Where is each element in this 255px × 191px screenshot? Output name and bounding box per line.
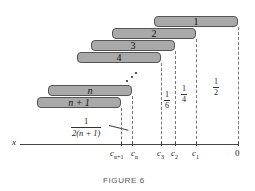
tick-label-c1: c1 — [192, 148, 199, 160]
bar-label: n — [88, 86, 93, 96]
tick-c3 — [161, 142, 162, 146]
bar-n-plus-1: n + 1 — [37, 97, 121, 108]
bar-label: 2 — [152, 29, 157, 39]
fraction-one-over-2n-plus-1: 1 2(n + 1) — [71, 117, 101, 137]
bar-label: n + 1 — [68, 98, 90, 108]
dashed-line-zero — [238, 27, 239, 144]
dashed-line-c-n — [132, 96, 133, 144]
bar-label: 4 — [117, 53, 122, 63]
tick-c2 — [175, 142, 176, 146]
x-axis — [20, 144, 239, 145]
figure-caption: FIGURE 6 — [103, 176, 145, 185]
bar-n: n — [48, 85, 132, 96]
tick-zero — [238, 142, 239, 146]
fraction-one-sixth: 1 6 — [164, 91, 170, 110]
dashed-line-c1 — [196, 39, 197, 144]
dashed-line-c3 — [161, 63, 162, 144]
fraction-one-half: 1 2 — [213, 78, 219, 97]
bar-3: 3 — [91, 40, 175, 51]
bar-2: 2 — [112, 28, 196, 39]
ellipsis-dot — [126, 80, 128, 82]
axis-label-x: x — [12, 137, 16, 147]
dashed-line-c2 — [175, 51, 176, 144]
ellipsis-dot — [131, 76, 133, 78]
tick-c-n — [132, 142, 133, 146]
leader-line — [109, 125, 129, 131]
bar-1: 1 — [154, 16, 238, 27]
tick-label-c-n: cn — [131, 148, 138, 160]
tick-c-n-plus-1 — [121, 142, 122, 146]
bar-label: 1 — [194, 17, 199, 27]
bar-label: 3 — [131, 41, 136, 51]
ellipsis-dot — [135, 72, 137, 74]
tick-label-c2: c2 — [171, 148, 178, 160]
tick-label-zero: 0 — [235, 148, 240, 158]
dashed-line-c-n-plus-1 — [121, 108, 122, 144]
bar-4: 4 — [77, 52, 161, 63]
tick-c1 — [196, 142, 197, 146]
tick-label-c3: c3 — [157, 148, 164, 160]
tick-label-c-n-plus-1: cn+1 — [110, 148, 123, 160]
fraction-one-fourth: 1 4 — [181, 85, 187, 104]
